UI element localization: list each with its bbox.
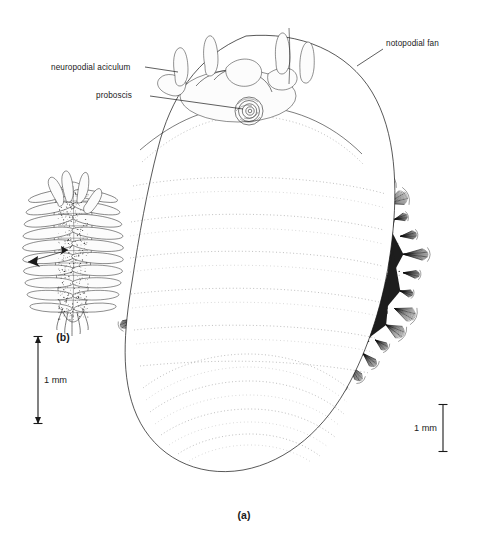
stipple-dot (72, 226, 73, 227)
stipple-dot (61, 214, 62, 215)
stipple-dot (67, 211, 68, 212)
stipple-dot (85, 271, 86, 272)
stipple-dot (71, 315, 72, 316)
stipple-dot (69, 260, 70, 261)
stipple-dot (72, 302, 73, 303)
stipple-dot (72, 245, 73, 246)
stipple-dot (69, 204, 70, 205)
stipple-dot (65, 225, 66, 226)
stipple-dot (83, 243, 84, 244)
stipple-dot (79, 281, 80, 282)
stipple-dot (86, 287, 87, 288)
stipple-dot (59, 319, 60, 320)
panel-b-parapodium (72, 278, 121, 288)
stipple-dot (71, 209, 72, 210)
stipple-dot (65, 288, 66, 289)
stipple-dot (80, 279, 81, 280)
stipple-dot (66, 298, 67, 299)
stipple-dot (82, 292, 83, 293)
stipple-dot (61, 217, 62, 218)
stipple-dot (59, 263, 60, 264)
stipple-dot (74, 226, 75, 227)
stipple-dot (69, 263, 70, 264)
stipple-dot (78, 293, 79, 294)
stipple-dot (73, 217, 74, 218)
scientific-figure: neuropodial aciculum proboscis notopodia… (0, 0, 491, 544)
stipple-dot (83, 225, 84, 226)
stipple-dot (77, 263, 78, 264)
stipple-dot (58, 242, 59, 243)
stipple-dot (58, 308, 59, 309)
panel-b-caption: (b) (56, 331, 69, 343)
stipple-dot (60, 224, 61, 225)
stipple-dot (63, 255, 64, 256)
stipple-dot (69, 226, 70, 227)
stipple-dot (63, 257, 64, 258)
stipple-dot (85, 304, 86, 305)
stipple-dot (64, 292, 65, 293)
stipple-dot (63, 259, 64, 260)
stipple-dot (82, 230, 83, 231)
stipple-dot (77, 245, 78, 246)
stipple-dot (78, 305, 79, 306)
stipple-dot (79, 316, 80, 317)
stipple-dot (80, 253, 81, 254)
stipple-dot (75, 285, 76, 286)
stipple-dot (76, 214, 77, 215)
stipple-dot (70, 285, 71, 286)
stipple-dot (83, 308, 84, 309)
stipple-dot (84, 248, 85, 249)
stipple-dot (73, 222, 74, 223)
stipple-dot (66, 266, 67, 267)
stipple-dot (78, 297, 79, 298)
stipple-dot (86, 309, 87, 310)
stipple-dot (68, 304, 69, 305)
stipple-dot (81, 241, 82, 242)
stipple-dot (70, 239, 71, 240)
notopodial-fan-label: notopodial fan (386, 39, 439, 48)
stipple-dot (62, 270, 63, 271)
panel-b-parapodium (25, 278, 74, 288)
stipple-dot (69, 278, 70, 279)
stipple-dot (62, 294, 63, 295)
stipple-dot (85, 219, 86, 220)
stipple-dot (60, 212, 61, 213)
stipple-dot (80, 263, 81, 264)
stipple-dot (71, 204, 72, 205)
stipple-dot (80, 238, 81, 239)
stipple-dot (75, 293, 76, 294)
stipple-dot (61, 265, 62, 266)
stipple-dot (75, 192, 76, 193)
stipple-dot (64, 315, 65, 316)
stipple-dot (73, 319, 74, 320)
stipple-dot (77, 276, 78, 277)
stipple-dot (58, 264, 59, 265)
stipple-dot (87, 286, 88, 287)
stipple-dot (73, 274, 74, 275)
stipple-dot (86, 304, 87, 305)
stipple-dot (73, 203, 74, 204)
stipple-dot (74, 196, 75, 197)
stipple-dot (58, 233, 59, 234)
stipple-dot (66, 216, 67, 217)
stipple-dot (82, 213, 83, 214)
stipple-dot (84, 310, 85, 311)
stipple-dot (63, 289, 64, 290)
stipple-dot (66, 300, 67, 301)
stipple-dot (68, 213, 69, 214)
stipple-dot (62, 217, 63, 218)
stipple-dot (79, 291, 80, 292)
stipple-dot (70, 237, 71, 238)
stipple-dot (63, 313, 64, 314)
stipple-dot (71, 261, 72, 262)
stipple-dot (71, 202, 72, 203)
stipple-dot (81, 303, 82, 304)
stipple-dot (85, 223, 86, 224)
stipple-dot (62, 312, 63, 313)
stipple-dot (66, 206, 67, 207)
scale-bar-left-label: 1 mm (44, 375, 67, 385)
stipple-dot (65, 271, 66, 272)
stipple-dot (76, 195, 77, 196)
stipple-dot (72, 261, 73, 262)
stipple-dot (69, 230, 70, 231)
